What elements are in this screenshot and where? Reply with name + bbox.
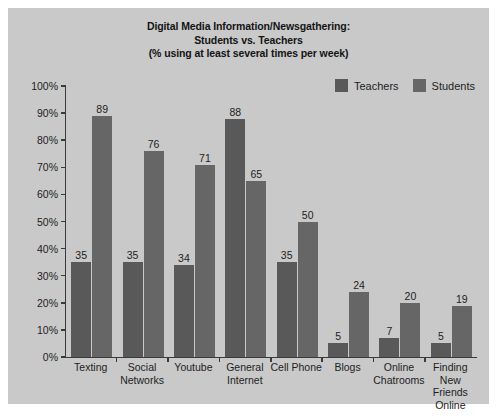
y-axis-tick: 60%	[37, 188, 66, 200]
bar-rect	[92, 116, 112, 357]
bar-value-label: 20	[405, 290, 417, 303]
x-axis-label-line: Finding New	[425, 361, 476, 386]
x-axis-label-line: Chatrooms	[373, 374, 424, 387]
bar-rect	[246, 181, 266, 357]
x-axis-label-line: Social	[116, 361, 167, 374]
bar-rect	[71, 262, 91, 357]
bar-rect	[195, 165, 215, 357]
chart-title-line-3: (% using at least several times per week…	[8, 47, 489, 61]
y-axis-tick-label: 50%	[37, 216, 61, 228]
bar-rect	[144, 151, 164, 357]
bar-value-label: 65	[250, 168, 262, 181]
bar-students[interactable]: 76	[144, 151, 164, 357]
bar-students[interactable]: 65	[246, 181, 266, 357]
bar-teachers[interactable]: 88	[225, 119, 245, 357]
chart-title: Digital Media Information/Newsgathering:…	[8, 20, 489, 61]
y-axis-tick: 30%	[37, 270, 66, 282]
chart-title-line-2: Students vs. Teachers	[8, 34, 489, 48]
bar-teachers[interactable]: 35	[277, 262, 297, 357]
bar-group: 3576	[117, 86, 168, 357]
y-axis-tick-label: 20%	[37, 297, 61, 309]
bar-rect	[328, 343, 348, 357]
bar-value-label: 89	[96, 103, 108, 116]
y-axis-tick: 100%	[31, 80, 66, 92]
bar-teachers[interactable]: 35	[71, 262, 91, 357]
bar-teachers[interactable]: 35	[123, 262, 143, 357]
bar-rect	[431, 343, 451, 357]
x-axis-label-line: Online	[373, 361, 424, 374]
x-axis-label-line: General	[219, 361, 270, 374]
bar-group: 3589	[66, 86, 117, 357]
bar-rect	[349, 292, 369, 357]
y-axis-tick-label: 100%	[31, 80, 61, 92]
bar-value-label: 35	[127, 249, 139, 262]
x-axis-label: Blogs	[322, 361, 373, 374]
y-axis-tick-label: 0%	[43, 351, 61, 363]
bar-value-label: 34	[178, 252, 190, 265]
bar-value-label: 88	[229, 106, 241, 119]
y-axis-tick-label: 90%	[37, 107, 61, 119]
bar-students[interactable]: 20	[400, 303, 420, 357]
bar-students[interactable]: 50	[298, 222, 318, 358]
y-axis-tick: 10%	[37, 324, 66, 336]
x-axis-label-line: Online	[425, 399, 476, 412]
x-axis-label: Cell Phone	[271, 361, 322, 374]
bar-group: 8865	[220, 86, 271, 357]
x-axis-label-line: Texting	[65, 361, 116, 374]
bar-value-label: 5	[335, 330, 341, 343]
bar-rect	[298, 222, 318, 358]
bar-students[interactable]: 89	[92, 116, 112, 357]
bar-value-label: 50	[302, 209, 314, 222]
y-axis-tick-label: 80%	[37, 134, 61, 146]
y-axis-tick: 80%	[37, 134, 66, 146]
bar-value-label: 71	[199, 152, 211, 165]
x-axis-label: Finding NewFriendsOnline	[425, 361, 476, 411]
bar-value-label: 7	[387, 325, 393, 338]
y-axis-tick-label: 30%	[37, 270, 61, 282]
plot-area: 0%10%20%30%40%50%60%70%80%90%100% 358935…	[65, 86, 477, 358]
y-axis-tick: 0%	[43, 351, 66, 363]
bar-teachers[interactable]: 5	[328, 343, 348, 357]
bar-groups: 35893576347188653550524720519	[66, 86, 477, 357]
bar-group: 720	[374, 86, 425, 357]
y-axis-tick-label: 70%	[37, 161, 61, 173]
bar-group: 3550	[272, 86, 323, 357]
bar-value-label: 5	[438, 330, 444, 343]
bar-students[interactable]: 19	[452, 306, 472, 357]
y-axis-tick: 70%	[37, 161, 66, 173]
x-axis-label-line: Networks	[116, 374, 167, 387]
bar-rect	[225, 119, 245, 357]
bar-value-label: 35	[75, 249, 87, 262]
x-axis-label: Texting	[65, 361, 116, 374]
bar-students[interactable]: 71	[195, 165, 215, 357]
bar-group: 524	[323, 86, 374, 357]
bar-group: 3471	[169, 86, 220, 357]
y-axis-tick: 20%	[37, 297, 66, 309]
x-axis-label-line: Youtube	[168, 361, 219, 374]
y-axis-tick-label: 10%	[37, 324, 61, 336]
y-axis-tick: 40%	[37, 243, 66, 255]
x-axis-label-line: Cell Phone	[271, 361, 322, 374]
bar-rect	[400, 303, 420, 357]
bar-rect	[123, 262, 143, 357]
x-axis-label-line: Friends	[425, 386, 476, 399]
x-axis-label: SocialNetworks	[116, 361, 167, 386]
bar-teachers[interactable]: 34	[174, 265, 194, 357]
x-axis-label: GeneralInternet	[219, 361, 270, 386]
bar-group: 519	[426, 86, 477, 357]
bar-rect	[277, 262, 297, 357]
bar-teachers[interactable]: 5	[431, 343, 451, 357]
bar-rect	[452, 306, 472, 357]
bar-rect	[379, 338, 399, 357]
bar-value-label: 35	[281, 249, 293, 262]
x-axis-labels: TextingSocialNetworksYoutubeGeneralInter…	[65, 361, 476, 411]
bar-teachers[interactable]: 7	[379, 338, 399, 357]
y-axis-tick-label: 60%	[37, 188, 61, 200]
bar-value-label: 76	[148, 138, 160, 151]
x-axis-label-line: Blogs	[322, 361, 373, 374]
bar-students[interactable]: 24	[349, 292, 369, 357]
bar-value-label: 24	[353, 279, 365, 292]
chart-title-line-1: Digital Media Information/Newsgathering:	[8, 20, 489, 34]
x-axis-label: OnlineChatrooms	[373, 361, 424, 386]
chart-card: Digital Media Information/Newsgathering:…	[8, 8, 489, 404]
